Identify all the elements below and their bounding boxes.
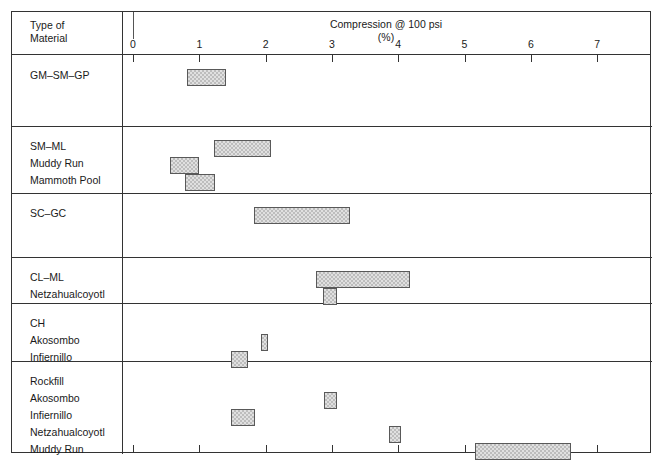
group-label-ch: CHAkosomboInfiernillo xyxy=(30,315,80,366)
axis-tick-mark xyxy=(199,55,200,62)
axis-tick-mark xyxy=(465,445,466,452)
axis-tick-label: 2 xyxy=(256,39,276,50)
axis-tick-label: 4 xyxy=(388,39,408,50)
axis-tick-mark xyxy=(266,445,267,452)
data-bar xyxy=(214,140,271,157)
type-of-material-header: Type of Material xyxy=(30,19,67,45)
axis-tick-label: 7 xyxy=(587,39,607,50)
axis-tick-mark xyxy=(597,55,598,62)
group-label-line: GM–SM–GP xyxy=(30,67,90,84)
axis-tick-label: 5 xyxy=(455,39,475,50)
group-label-line: Infiernillo xyxy=(30,349,80,366)
axis-tick-mark xyxy=(133,55,134,62)
data-bar xyxy=(323,288,337,305)
group-label-cl-ml: CL–MLNetzahualcoyotl xyxy=(30,269,105,303)
axis-tick-mark xyxy=(398,445,399,452)
plot-area xyxy=(122,55,650,452)
group-label-line: Infiernillo xyxy=(30,407,105,424)
group-label-line: CH xyxy=(30,315,80,332)
data-bar xyxy=(170,157,199,174)
group-label-line: Muddy Run xyxy=(30,441,105,458)
axis-tick-mark xyxy=(398,55,399,62)
group-label-line: SC–GC xyxy=(30,205,66,222)
chart-header-band: Type of Material Compression @ 100 psi (… xyxy=(12,12,650,55)
axis-tick-label: 6 xyxy=(521,39,541,50)
axis-tick-mark xyxy=(266,55,267,62)
chart-figure: Type of Material Compression @ 100 psi (… xyxy=(11,11,651,453)
data-bar xyxy=(475,443,571,460)
group-label-rockfill: RockfillAkosomboInfiernilloNetzahualcoyo… xyxy=(30,373,105,458)
data-bar xyxy=(187,69,226,86)
axis-tick-mark xyxy=(332,445,333,452)
data-bar xyxy=(231,409,255,426)
data-bar xyxy=(254,207,350,224)
axis-tick-mark xyxy=(597,445,598,452)
group-label-line: Rockfill xyxy=(30,373,105,390)
data-bar xyxy=(316,271,410,288)
data-bar xyxy=(324,392,337,409)
data-bar xyxy=(231,351,248,368)
chart-title-main: Compression @ 100 psi xyxy=(330,18,442,30)
axis-tick-label: 3 xyxy=(322,39,342,50)
axis-tick-label: 0 xyxy=(123,39,143,50)
axis-tick-mark xyxy=(465,55,466,62)
group-label-line: SM–ML xyxy=(30,138,101,155)
data-bar xyxy=(261,334,268,351)
group-label-line: Akosombo xyxy=(30,332,80,349)
group-label-sm-ml: SM–MLMuddy RunMammoth Pool xyxy=(30,138,101,189)
axis-tick-mark xyxy=(133,445,134,452)
axis-tick-mark xyxy=(531,55,532,62)
group-label-gm-sm-gp: GM–SM–GP xyxy=(30,67,90,84)
axis-tick-mark xyxy=(332,55,333,62)
group-label-line: CL–ML xyxy=(30,269,105,286)
group-label-sc-gc: SC–GC xyxy=(30,205,66,222)
data-bar xyxy=(185,174,215,191)
group-label-line: Akosombo xyxy=(30,390,105,407)
axis-tick-label: 1 xyxy=(189,39,209,50)
group-label-line: Netzahualcoyotl xyxy=(30,424,105,441)
axis-tick-mark xyxy=(199,445,200,452)
data-bar xyxy=(389,426,401,443)
axis-tick-mark xyxy=(133,12,134,39)
group-label-line: Netzahualcoyotl xyxy=(30,286,105,303)
group-label-line: Muddy Run xyxy=(30,155,101,172)
group-label-line: Mammoth Pool xyxy=(30,172,101,189)
